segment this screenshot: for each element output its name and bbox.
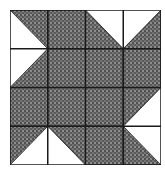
quilt-cell bbox=[10, 126, 48, 165]
quilt-grid bbox=[10, 10, 161, 165]
quilt-cell bbox=[123, 126, 161, 165]
quilt-cell bbox=[48, 10, 86, 49]
quilt-cell bbox=[86, 10, 124, 49]
quilt-cell bbox=[123, 88, 161, 127]
quilt-cell bbox=[10, 10, 48, 49]
quilt-cell bbox=[48, 49, 86, 88]
quilt-cell bbox=[10, 49, 48, 88]
quilt-cell bbox=[48, 88, 86, 127]
quilt-cell bbox=[86, 49, 124, 88]
quilt-block-diagram bbox=[10, 10, 161, 165]
quilt-cell bbox=[86, 126, 124, 165]
quilt-cell bbox=[10, 88, 48, 127]
quilt-cell bbox=[48, 126, 86, 165]
quilt-cell bbox=[123, 49, 161, 88]
quilt-cell bbox=[86, 88, 124, 127]
quilt-cell bbox=[123, 10, 161, 49]
